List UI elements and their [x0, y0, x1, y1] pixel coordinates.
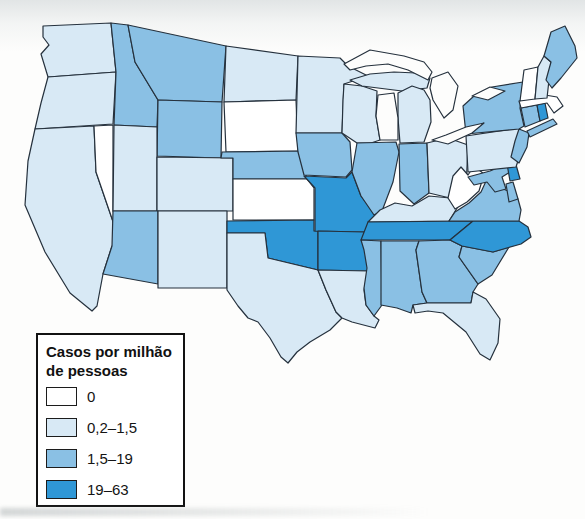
- state-oregon: [35, 72, 116, 129]
- state-colorado: [157, 157, 233, 211]
- state-nebraska: [221, 151, 307, 179]
- legend-title: Casos por milhão de pessoas: [46, 342, 178, 380]
- state-utah: [113, 125, 157, 211]
- legend-label-2: 1,5–19: [87, 450, 133, 467]
- legend-swatch-2: [46, 449, 77, 468]
- legend-swatch-1: [46, 418, 77, 437]
- legend-label-3: 19–63: [87, 481, 129, 498]
- legend-swatch-0: [46, 387, 77, 406]
- state-wisconsin: [342, 84, 380, 143]
- state-wyoming: [157, 100, 222, 158]
- legend-item-2: 1,5–19: [46, 449, 177, 468]
- legend-item-1: 0,2–1,5: [46, 418, 177, 437]
- state-south-dakota: [224, 100, 298, 152]
- legend-label-1: 0,2–1,5: [87, 419, 137, 436]
- state-maine: [544, 26, 577, 88]
- scanned-figure: Casos por milhão de pessoas 0 0,2–1,5 1,…: [0, 0, 585, 519]
- state-michigan-lower-peninsula: [398, 86, 431, 143]
- lake-michigan: [376, 93, 398, 140]
- state-new-mexico: [158, 211, 227, 288]
- map-legend: Casos por milhão de pessoas 0 0,2–1,5 1,…: [36, 333, 185, 507]
- legend-item-3: 19–63: [46, 480, 177, 499]
- state-iowa: [296, 133, 352, 177]
- lake-huron: [430, 72, 458, 118]
- legend-item-0: 0: [46, 387, 177, 406]
- state-indiana: [399, 143, 429, 204]
- state-north-dakota: [224, 46, 298, 102]
- state-washington: [41, 23, 116, 77]
- legend-label-0: 0: [87, 388, 95, 405]
- state-kansas: [233, 179, 314, 220]
- legend-swatch-3: [46, 480, 77, 499]
